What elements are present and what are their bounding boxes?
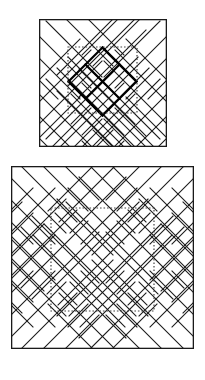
figure-bottom-frame: [12, 167, 194, 349]
figure-bottom: [11, 166, 194, 349]
figure-bottom-canvas: [11, 166, 194, 349]
figure-top: [39, 19, 167, 147]
figure-top-canvas: [39, 19, 167, 147]
diagram-page: [0, 0, 205, 380]
